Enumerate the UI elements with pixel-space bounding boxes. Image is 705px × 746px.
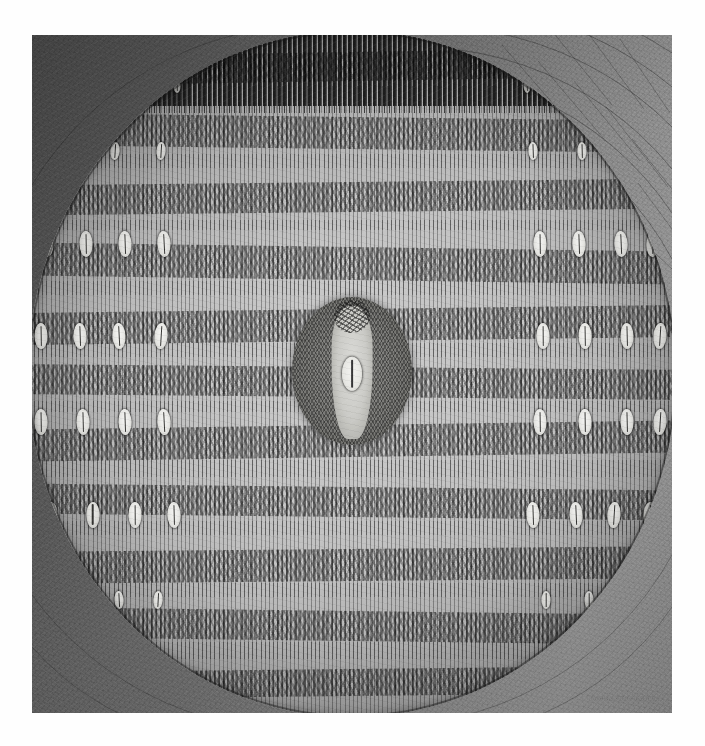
- artwork-plate: illegible artist signature: [32, 35, 672, 713]
- artist-signature: illegible artist signature: [590, 695, 658, 701]
- artwork-canvas: illegible artist signature: [0, 0, 705, 746]
- surface-grain-overlay: [32, 35, 672, 713]
